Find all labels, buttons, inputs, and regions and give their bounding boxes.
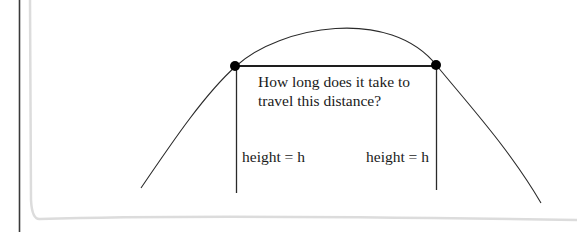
question-line-2: travel this distance? xyxy=(258,91,410,110)
left-height-label: height = h xyxy=(242,147,305,166)
right-height-label: height = h xyxy=(366,147,429,166)
left-point-marker xyxy=(230,61,240,71)
question-line-1: How long does it take to xyxy=(258,72,410,91)
question-text: How long does it take to travel this dis… xyxy=(258,72,410,110)
trajectory-arc xyxy=(141,28,541,203)
right-point-marker xyxy=(431,60,441,70)
diagram-canvas: How long does it take to travel this dis… xyxy=(0,0,577,232)
